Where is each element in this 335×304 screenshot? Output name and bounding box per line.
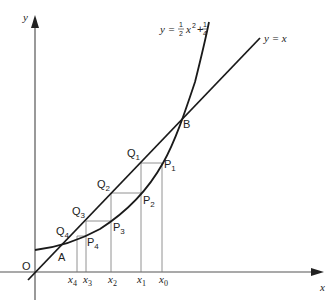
- origin-label: O: [22, 260, 31, 272]
- point-p3-label: P3: [113, 221, 125, 236]
- point-q3-label: Q3: [72, 205, 86, 220]
- tick-x4: x4: [67, 273, 77, 288]
- point-a-label: A: [58, 251, 66, 263]
- svg-text:2: 2: [179, 30, 183, 37]
- tick-x2: x2: [107, 273, 117, 288]
- x-axis-label: x: [319, 281, 325, 293]
- cobweb-guides: [77, 163, 162, 272]
- y-axis-arrow-icon: [31, 15, 39, 28]
- svg-text:1: 1: [203, 21, 207, 28]
- tick-x1: x1: [136, 273, 146, 288]
- point-p4-label: P4: [87, 236, 99, 251]
- point-p1-label: P1: [164, 158, 176, 173]
- parabola-equation-label: y = 1 2 x 2 + 1 4: [159, 21, 208, 37]
- svg-text:2: 2: [192, 22, 196, 29]
- svg-text:4: 4: [203, 30, 207, 37]
- svg-text:1: 1: [179, 21, 183, 28]
- axes: y x O: [0, 11, 325, 300]
- cobweb-diagram: y x O y = 1 2 x 2 + 1 4 y = x A B P1 P: [0, 0, 335, 304]
- point-q2-label: Q2: [97, 178, 111, 193]
- point-p2-label: P2: [143, 194, 155, 209]
- parabola-curve: [35, 22, 209, 250]
- point-b-label: B: [183, 118, 190, 130]
- line-equation-label: y = x: [263, 32, 287, 44]
- svg-text:y =: y =: [159, 23, 175, 35]
- x-axis-arrow-icon: [311, 268, 324, 276]
- x-tick-labels: x4 x3 x2 x1 x0: [67, 273, 168, 288]
- tick-x3: x3: [82, 273, 92, 288]
- tick-x0: x0: [158, 273, 168, 288]
- point-q4-label: Q4: [56, 225, 70, 240]
- y-axis-label: y: [22, 11, 28, 23]
- point-q1-label: Q1: [127, 147, 141, 162]
- svg-text:x: x: [185, 23, 191, 35]
